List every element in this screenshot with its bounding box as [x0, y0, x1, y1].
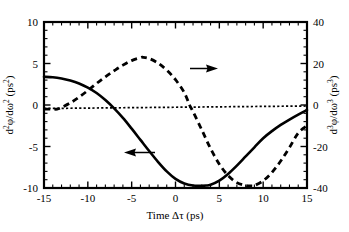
y-tick-label-left: 5	[33, 58, 39, 70]
y-tick-label-right: 0	[313, 99, 319, 111]
y-tick-label-right: 40	[313, 16, 325, 28]
svg-text:d2φ/dω2 (ps2): d2φ/dω2 (ps2)	[2, 75, 17, 134]
right-y-axis-title: d3φ/dω3 (ps3)	[326, 75, 341, 134]
y-tick-label-left: 10	[27, 16, 39, 28]
zero-reference-line	[44, 106, 307, 108]
y-tick-label-right: -40	[313, 182, 328, 194]
y-tick-label-right: -20	[313, 141, 328, 153]
y-tick-label-left: -5	[29, 141, 39, 153]
y-tick-label-right: 20	[313, 58, 325, 70]
x-tick-label: 0	[173, 192, 179, 204]
right-y-axis-tick-labels: -40-2002040	[313, 16, 328, 194]
svg-text:Time Δτ (ps): Time Δτ (ps)	[147, 209, 204, 222]
x-tick-label: 5	[217, 192, 223, 204]
x-axis-title: Time Δτ (ps)	[147, 209, 204, 222]
left-y-axis-ticks	[44, 22, 51, 188]
right-y-axis-ticks	[301, 22, 308, 188]
third-order-dispersion-curve	[44, 57, 307, 186]
plot-frame	[44, 22, 307, 188]
chart-canvas: -15-10-5051015 -10-50510 -40-2002040 Tim…	[0, 0, 349, 232]
x-tick-label: 10	[258, 192, 270, 204]
svg-text:d3φ/dω3 (ps3): d3φ/dω3 (ps3)	[326, 75, 341, 134]
x-tick-label: -10	[80, 192, 95, 204]
x-tick-label: -5	[127, 192, 137, 204]
x-axis-ticks	[44, 22, 307, 188]
figure-container: -15-10-5051015 -10-50510 -40-2002040 Tim…	[0, 0, 349, 232]
left-pointing-arrow	[124, 148, 155, 156]
y-tick-label-left: -10	[23, 182, 38, 194]
x-tick-label: 15	[302, 192, 314, 204]
y-tick-label-left: 0	[33, 99, 39, 111]
x-tick-label: -15	[37, 192, 52, 204]
left-y-axis-tick-labels: -10-50510	[23, 16, 38, 194]
right-pointing-arrow	[190, 64, 218, 72]
x-axis-tick-labels: -15-10-5051015	[37, 192, 313, 204]
left-y-axis-title: d2φ/dω2 (ps2)	[2, 75, 17, 134]
